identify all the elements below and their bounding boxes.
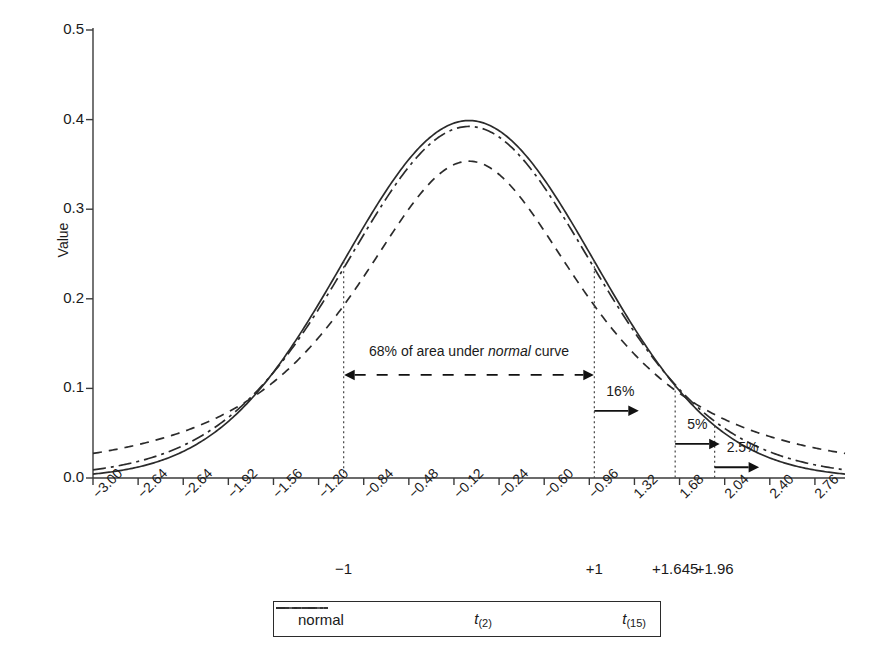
arrow-head-left-area-68 [344, 370, 355, 380]
legend-label: t(15) [622, 610, 646, 629]
annotation-area-5: 5% [687, 416, 707, 432]
legend-label-sub: (15) [626, 617, 646, 629]
plot-canvas [0, 0, 884, 659]
x-secondary-label: +1 [559, 560, 629, 577]
y-tick-label: 0.3 [36, 200, 84, 215]
y-tick-label: 0.0 [36, 469, 84, 484]
legend-label: t(2) [474, 610, 492, 629]
annotation-text-prefix: 68% of area under [369, 343, 488, 359]
series-curve-normal [93, 121, 845, 474]
annotation-text-suffix: curve [531, 343, 569, 359]
arrow-head-area-16 [628, 406, 639, 416]
annotation-area-2p5: 2.5% [727, 439, 759, 455]
x-secondary-label: −1 [309, 560, 379, 577]
y-tick-label: 0.4 [36, 111, 84, 126]
y-tick-label: 0.1 [36, 379, 84, 394]
annotation-area-16: 16% [606, 383, 634, 399]
legend-item-t(2): t(2) [464, 610, 492, 629]
chart-legend: normalt(2)t(15) [273, 601, 661, 637]
legend-label-sub: (2) [478, 617, 491, 629]
arrow-head-area-2p5 [749, 462, 760, 472]
series-curve-t2 [93, 161, 845, 453]
annotation-area-68: 68% of area under normal curve [319, 343, 619, 359]
y-tick-label: 0.2 [36, 290, 84, 305]
series-curve-t15 [93, 126, 845, 469]
x-secondary-label: +1.96 [680, 560, 750, 577]
arrow-head-right-area-68 [583, 370, 594, 380]
chart-figure: Value 0.00.10.20.30.40.5 −3.00−2.64−2.64… [0, 0, 884, 659]
legend-item-t(15): t(15) [612, 610, 646, 629]
legend-key-dashdot [274, 602, 330, 614]
annotation-text-italic: normal [488, 343, 531, 359]
y-tick-label: 0.5 [36, 21, 84, 36]
